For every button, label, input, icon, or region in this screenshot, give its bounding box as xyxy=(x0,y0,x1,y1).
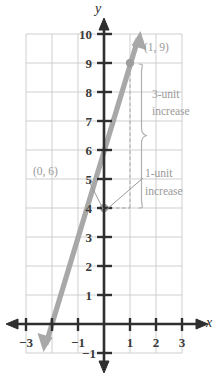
y-axis-arrow-up xyxy=(99,18,109,30)
y-tick-label-8: 8 xyxy=(68,86,92,99)
y-axis-arrow-down xyxy=(99,361,109,373)
y-tick-label-5: 5 xyxy=(68,173,92,186)
x-tick-label-neg1: −1 xyxy=(66,336,90,349)
point-marker-1-9 xyxy=(126,59,134,67)
rise-annotation-line2: increase xyxy=(152,106,190,118)
y-tick-label-4: 4 xyxy=(68,202,92,215)
rise-annotation-line1: 3-unit xyxy=(152,89,179,101)
x-tick-label-2: 2 xyxy=(146,336,166,349)
y-tick-label-6: 6 xyxy=(68,144,92,157)
x-tick-label-1: 1 xyxy=(120,336,140,349)
x-axis-arrow-left xyxy=(6,319,18,329)
x-axis-label: x xyxy=(206,316,212,330)
x-tick-label-neg3: −3 xyxy=(14,336,38,349)
y-tick-label-2: 2 xyxy=(68,260,92,273)
y-tick-label-3: 3 xyxy=(68,231,92,244)
plotted-line xyxy=(46,39,138,344)
graph-canvas xyxy=(0,0,223,378)
y-tick-label-10: 10 xyxy=(68,28,92,41)
y-tick-label-7: 7 xyxy=(68,115,92,128)
coordinate-plane-figure: x y 10 9 8 7 6 5 4 3 2 1 −1 −3 −1 1 2 3 … xyxy=(0,0,223,378)
y-tick-label-9: 9 xyxy=(68,57,92,70)
run-annotation-line1: 1-unit xyxy=(145,168,172,180)
leader-line-run-label xyxy=(106,178,143,210)
y-axis-label: y xyxy=(95,2,101,16)
point-label-0-6: (0, 6) xyxy=(33,166,58,178)
point-label-1-9: (1, 9) xyxy=(144,42,169,54)
run-annotation-line2: increase xyxy=(145,186,183,198)
y-tick-label-1: 1 xyxy=(68,289,92,302)
x-tick-label-3: 3 xyxy=(172,336,192,349)
